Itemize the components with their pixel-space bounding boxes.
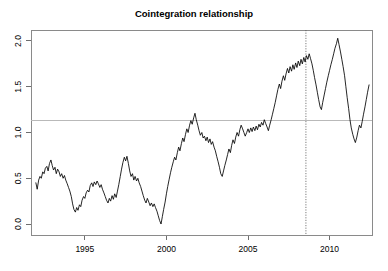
chart-title: Cointegration relationship	[135, 8, 253, 19]
cointegration-line-chart: Cointegration relationship 0.00.51.01.52…	[0, 0, 388, 271]
x-tick-label: 2005	[239, 244, 258, 254]
y-tick-label: 1.0	[13, 126, 23, 138]
chart-figure: Cointegration relationship 0.00.51.01.52…	[0, 0, 388, 271]
y-tick-label: 1.5	[13, 81, 23, 93]
y-tick-label: 0.0	[13, 218, 23, 230]
y-tick-label: 2.0	[13, 35, 23, 47]
x-tick-label: 1995	[75, 244, 94, 254]
figure-background	[0, 0, 388, 271]
x-tick-label: 2000	[157, 244, 176, 254]
x-tick-label: 2010	[320, 244, 339, 254]
y-tick-label: 0.5	[13, 172, 23, 184]
